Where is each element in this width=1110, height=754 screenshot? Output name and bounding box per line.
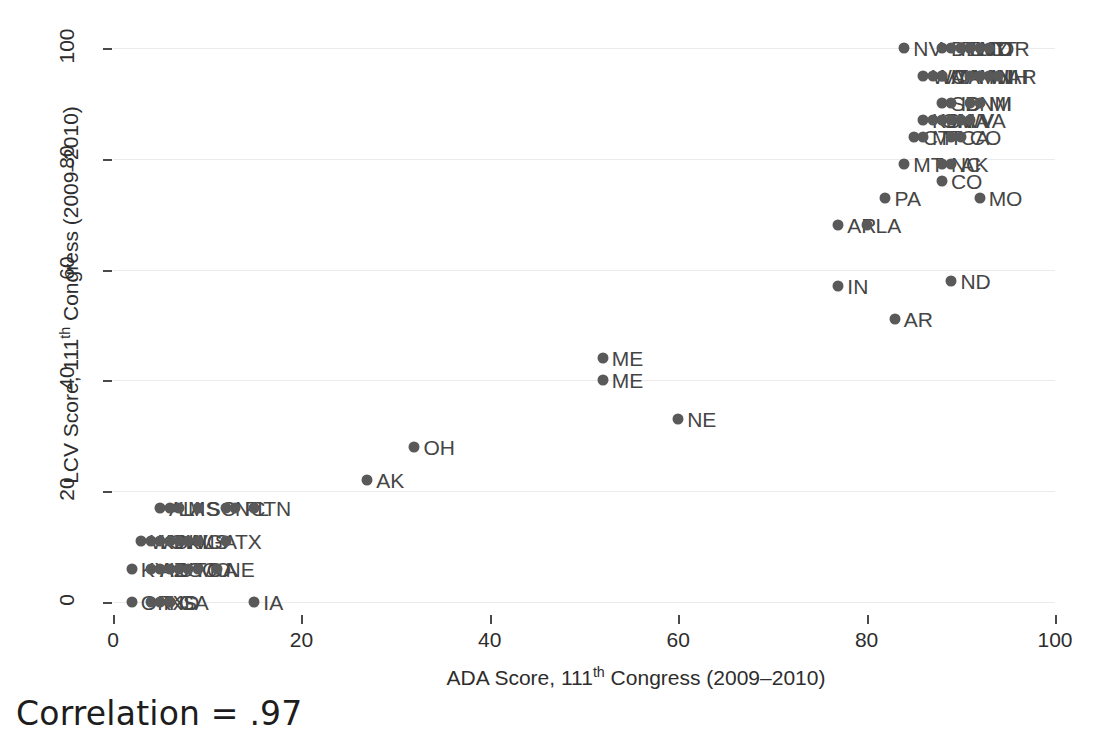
gridline <box>113 380 1055 381</box>
data-point-label: NE <box>687 409 716 430</box>
data-point-marker <box>899 159 910 170</box>
data-point-label: NE <box>226 558 255 579</box>
data-point-marker <box>230 502 241 513</box>
data-point-label: OR <box>998 38 1030 59</box>
data-point-marker <box>192 536 203 547</box>
data-point-marker <box>880 192 891 203</box>
data-point-marker <box>164 597 175 608</box>
data-point-marker <box>946 98 957 109</box>
x-tick-label: 40 <box>460 628 520 652</box>
data-point-marker <box>984 43 995 54</box>
x-tick-label: 0 <box>83 628 143 652</box>
x-tick <box>301 615 303 624</box>
data-point-marker <box>899 43 910 54</box>
data-point-label: ME <box>612 348 644 369</box>
y-axis-title: LCV Score, 111th Congress (2009–2010) <box>57 0 83 595</box>
data-point-label: MO <box>989 187 1023 208</box>
data-point-label: IN <box>847 276 868 297</box>
data-point-marker <box>126 597 137 608</box>
data-point-marker <box>936 175 947 186</box>
y-axis-line <box>0 0 2 574</box>
x-tick-label: 80 <box>837 628 897 652</box>
data-point-label: AK <box>376 470 404 491</box>
data-point-marker <box>918 131 929 142</box>
data-point-marker <box>211 563 222 574</box>
data-point-marker <box>833 281 844 292</box>
data-point-marker <box>946 275 957 286</box>
x-tick-label: 100 <box>1025 628 1085 652</box>
x-tick <box>867 615 869 624</box>
data-point-marker <box>833 220 844 231</box>
y-tick <box>103 48 112 50</box>
data-point-label: CO <box>951 170 983 191</box>
x-tick <box>490 615 492 624</box>
y-tick <box>103 159 112 161</box>
data-point-label: ND <box>960 270 990 291</box>
data-point-label: AR <box>904 309 933 330</box>
gridline <box>113 491 1055 492</box>
data-point-marker <box>889 314 900 325</box>
data-point-marker <box>221 536 232 547</box>
data-point-marker <box>362 475 373 486</box>
data-point-label: TX <box>235 531 262 552</box>
data-point-marker <box>673 414 684 425</box>
correlation-annotation: Correlation = .97 <box>16 694 302 733</box>
gridline <box>113 270 1055 271</box>
data-point-marker <box>126 563 137 574</box>
x-tick-label: 60 <box>648 628 708 652</box>
data-point-marker <box>597 375 608 386</box>
data-point-marker <box>946 159 957 170</box>
data-point-label: CO <box>970 126 1002 147</box>
x-axis-title: ADA Score, 111th Congress (2009–2010) <box>186 664 1086 690</box>
data-point-label: IA <box>263 592 283 613</box>
data-point-label: LA <box>876 215 902 236</box>
data-point-label: AR <box>1007 65 1036 86</box>
data-point-marker <box>861 220 872 231</box>
y-tick <box>103 491 112 493</box>
data-point-marker <box>597 353 608 364</box>
data-point-marker <box>955 131 966 142</box>
data-point-label: PA <box>894 187 920 208</box>
data-point-marker <box>409 441 420 452</box>
scatter-plot-figure: 020406080100 020406080100 LCV Score, 111… <box>0 0 1110 754</box>
data-point-marker <box>965 115 976 126</box>
data-point-marker <box>936 70 947 81</box>
data-point-label: OH <box>423 436 455 457</box>
y-tick <box>103 380 112 382</box>
data-point-marker <box>974 98 985 109</box>
data-point-label: ME <box>612 370 644 391</box>
data-point-marker <box>249 597 260 608</box>
x-tick <box>678 615 680 624</box>
x-tick <box>1055 615 1057 624</box>
data-point-marker <box>192 563 203 574</box>
x-tick <box>113 615 115 624</box>
x-tick-label: 20 <box>271 628 331 652</box>
data-point-label: ID <box>179 592 200 613</box>
data-point-label: TN <box>263 497 291 518</box>
y-tick <box>103 602 112 604</box>
data-point-marker <box>974 192 985 203</box>
y-tick <box>103 270 112 272</box>
data-point-marker <box>993 70 1004 81</box>
data-point-marker <box>192 502 203 513</box>
data-point-marker <box>173 502 184 513</box>
data-point-marker <box>249 502 260 513</box>
